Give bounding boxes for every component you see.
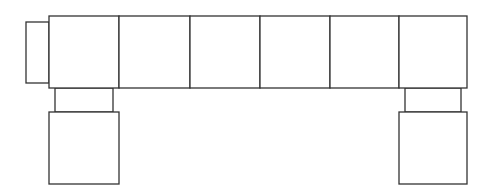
diagram-shapes: [26, 16, 467, 184]
leg-connector-right: [405, 88, 461, 112]
leg-box-left: [49, 112, 119, 184]
diagram-canvas: [0, 0, 490, 190]
row-cell-5: [330, 16, 399, 88]
row-cell-6: [399, 16, 467, 88]
leg-connector-left: [55, 88, 113, 112]
row-cell-1: [49, 16, 119, 88]
left-tab: [26, 22, 49, 83]
leg-box-right: [399, 112, 467, 184]
row-cell-3: [190, 16, 260, 88]
row-cell-4: [260, 16, 330, 88]
row-cell-2: [119, 16, 190, 88]
